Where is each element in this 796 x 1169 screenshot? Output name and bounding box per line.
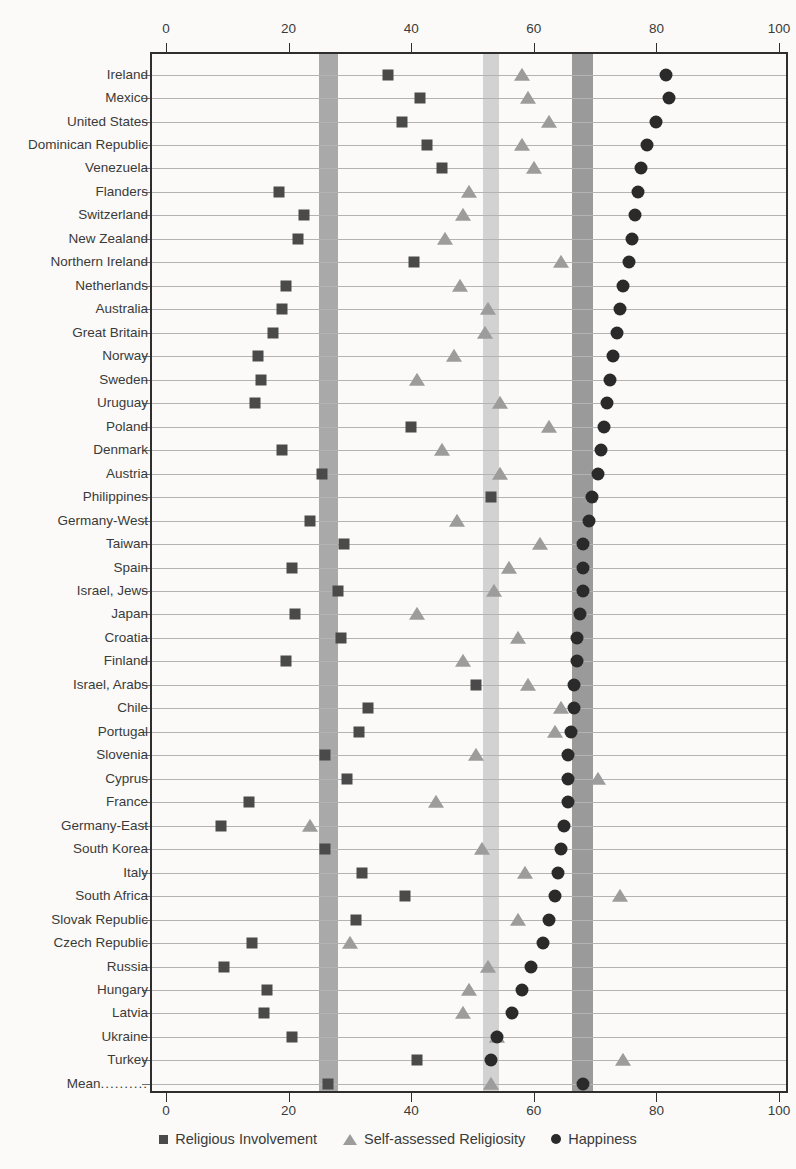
data-point-circle [564,725,577,738]
data-point-square [256,374,267,385]
data-point-square [277,444,288,455]
data-point-circle [576,561,589,574]
data-point-square [249,397,260,408]
data-point-circle [549,889,562,902]
data-point-triangle [590,771,606,784]
data-point-triangle [449,513,465,526]
x-axis-tick-label-60: 60 [526,1103,541,1118]
category-label-croatia: Croatia [104,631,148,645]
legend-label-self-assessed-religiosity: Self-assessed Religiosity [364,1131,525,1147]
category-label-hungary: Hungary [97,983,148,997]
category-label-northern-ireland: Northern Ireland [50,255,148,269]
data-point-triangle [520,90,536,103]
category-label-finland: Finland [104,654,148,668]
data-point-circle [595,443,608,456]
data-point-square [412,1054,423,1065]
category-label-netherlands: Netherlands [75,279,148,293]
data-point-triangle [446,348,462,361]
data-point-square [436,162,447,173]
data-point-circle [616,279,629,292]
data-point-square [305,515,316,526]
data-point-circle [552,866,565,879]
data-point-triangle [492,466,508,479]
data-point-square [243,796,254,807]
data-point-square [259,1007,270,1018]
data-point-circle [576,1077,589,1090]
data-point-circle [491,1030,504,1043]
legend-item-religious-involvement: Religious Involvement [159,1131,317,1147]
data-point-triangle [615,1052,631,1065]
category-label-turkey: Turkey [107,1053,148,1067]
data-point-square [397,116,408,127]
data-point-triangle [428,794,444,807]
category-label-germany-west: Germany-West [57,514,148,528]
data-point-triangle [434,442,450,455]
data-point-triangle [553,254,569,267]
data-point-circle [555,842,568,855]
category-label-south-korea: South Korea [73,842,148,856]
data-point-circle [610,326,623,339]
data-point-triangle [510,912,526,925]
data-point-circle [567,678,580,691]
x-axis-tick [166,43,167,52]
category-label-czech-republic: Czech Republic [53,936,148,950]
category-label-great-britain: Great Britain [72,326,148,340]
data-point-square [216,820,227,831]
x-axis-tick [656,1093,657,1102]
category-label-chile: Chile [117,701,148,715]
data-point-triangle [455,653,471,666]
data-point-triangle [461,184,477,197]
data-point-triangle [483,1076,499,1089]
category-label-taiwan: Taiwan [106,537,148,551]
data-point-circle [524,960,537,973]
data-point-circle [576,537,589,550]
data-point-circle [484,1053,497,1066]
data-point-triangle [409,606,425,619]
data-point-square [332,585,343,596]
data-point-square [289,608,300,619]
category-label-mexico: Mexico [105,91,148,105]
category-label-japan: Japan [111,607,148,621]
data-point-square [320,749,331,760]
category-label-denmark: Denmark [93,443,148,457]
data-point-circle [586,490,599,503]
data-point-circle [635,161,648,174]
legend-item-happiness: Happiness [551,1131,637,1147]
category-label-mean: Mean.......... [67,1077,148,1091]
data-point-square [341,773,352,784]
data-point-square [280,655,291,666]
data-point-triangle [461,982,477,995]
data-point-triangle [342,935,358,948]
category-label-germany-east: Germany-East [61,819,148,833]
data-point-square [338,538,349,549]
category-label-new-zealand: New Zealand [68,232,148,246]
data-point-square [274,186,285,197]
category-label-sweden: Sweden [99,373,148,387]
data-point-circle [625,232,638,245]
category-label-philippines: Philippines [83,490,148,504]
chart-legend: Religious Involvement Self-assessed Reli… [0,1131,796,1147]
x-axis-tick-label-100: 100 [768,1103,791,1118]
x-axis-tick [411,1093,412,1102]
data-point-square [320,843,331,854]
x-axis-tick [779,1093,780,1102]
category-label-switzerland: Switzerland [78,208,148,222]
data-point-triangle [437,231,453,244]
data-point-circle [543,913,556,926]
data-point-circle [536,936,549,949]
category-label-flanders: Flanders [95,185,148,199]
data-point-triangle [492,395,508,408]
category-label-cyprus: Cyprus [105,772,148,786]
x-axis-tick [779,43,780,52]
data-point-circle [561,772,574,785]
data-point-circle [558,819,571,832]
category-label-dominican-republic: Dominican Republic [28,138,148,152]
data-point-triangle [514,137,530,150]
data-point-circle [561,795,574,808]
data-point-triangle [468,747,484,760]
data-point-circle [598,420,611,433]
x-axis-tick [166,1093,167,1102]
data-point-triangle [526,160,542,173]
legend-label-religious-involvement: Religious Involvement [175,1131,317,1147]
x-axis-tick-label-0: 0 [162,21,170,36]
